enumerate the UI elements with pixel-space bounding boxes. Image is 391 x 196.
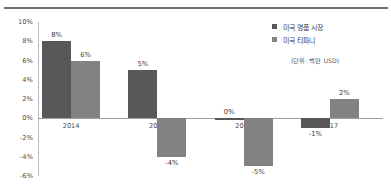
bar [128, 70, 157, 118]
bar [42, 41, 71, 118]
y-tick-label: -4% [20, 153, 33, 161]
bar-value-label: 2% [339, 89, 350, 97]
bar-value-label: 6% [80, 51, 91, 59]
legend-label: 미국 티파니 [283, 35, 315, 45]
bar-value-label: -4% [165, 159, 178, 167]
legend-swatch-icon [272, 24, 277, 29]
legend-label: 미국 명품 시장 [283, 22, 323, 32]
bar [244, 118, 273, 166]
y-axis-line [38, 22, 39, 176]
y-tick-label: 10% [18, 18, 33, 26]
y-tick-label: 6% [22, 57, 33, 65]
y-tick-label: -6% [20, 172, 33, 180]
header-divider [4, 7, 388, 9]
bar-value-label: 0% [224, 108, 235, 116]
x-tick-label: 2014 [63, 122, 80, 130]
plot-area: 10%8%6%4%2%0%-2%-4%-6% 2014201520162017 … [38, 22, 383, 176]
bar-chart: 10%8%6%4%2%0%-2%-4%-6% 2014201520162017 … [0, 0, 391, 196]
y-tick-label: 2% [22, 95, 33, 103]
bar-value-label: -5% [252, 168, 265, 176]
chart-legend: 미국 명품 시장 미국 티파니 [272, 20, 323, 46]
legend-item-1: 미국 티파니 [272, 33, 323, 46]
legend-item-0: 미국 명품 시장 [272, 20, 323, 33]
bar [215, 118, 244, 120]
bar [330, 99, 359, 118]
bar [157, 118, 186, 157]
bar-value-label: 5% [137, 60, 148, 68]
bar-value-label: 8% [51, 31, 62, 39]
legend-swatch-icon [272, 37, 277, 42]
y-tick-label: 0% [22, 114, 33, 122]
bar-value-label: -1% [309, 130, 322, 138]
bar [71, 61, 100, 119]
y-tick-label: 4% [22, 76, 33, 84]
unit-annotation: (단위: 백만 USD) [291, 56, 339, 65]
y-tick-label: -2% [20, 134, 33, 142]
y-tick-label: 8% [22, 37, 33, 45]
bar [301, 118, 330, 128]
